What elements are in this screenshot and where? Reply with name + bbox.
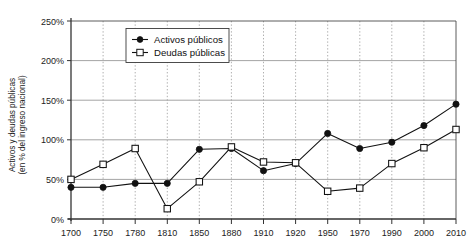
data-point-marker-square [389,160,395,166]
x-tick-label: 1810 [157,228,177,238]
y-axis-title-line1: Activos y deudas públicas [8,78,17,172]
data-point-marker-circle [132,180,138,186]
data-point-marker-square [260,159,266,165]
data-point-marker-square [196,179,202,185]
chart-container: 250% 200% 150% 100% 50% 0% 1700 175 [0,0,469,251]
data-point-marker-square [132,145,138,151]
open-square-icon [137,49,143,55]
chart-legend[interactable]: Activos públicos Deudas públicas [126,29,229,63]
data-point-marker-circle [453,101,459,107]
x-tick-label: 1920 [286,228,306,238]
y-axis-title: Activos y deudas públicas (en % del ingr… [8,75,27,174]
x-tick-label: 1950 [318,228,338,238]
legend-label-activos: Activos públicos [154,34,223,45]
y-tick-label: 0% [51,215,64,225]
data-point-marker-circle [389,139,395,145]
data-point-marker-square [228,144,234,150]
x-tick-label: 1780 [125,228,145,238]
data-point-marker-square [164,206,170,212]
y-tick-label: 250% [41,17,64,27]
x-tick-label: 1750 [93,228,113,238]
x-tick-label: 1850 [189,228,209,238]
x-tick-labels: 1700 1750 1780 1810 1850 1880 1910 1920 … [61,228,466,238]
x-axis-ticks [71,219,456,224]
x-tick-label: 2010 [446,228,466,238]
x-tick-label: 2000 [414,228,434,238]
y-tick-label: 150% [41,96,64,106]
data-point-marker-square [421,145,427,151]
filled-circle-icon [137,37,143,43]
y-tick-label: 50% [46,175,64,185]
data-point-marker-square [68,176,74,182]
data-point-marker-square [292,160,298,166]
x-tick-label: 1970 [350,228,370,238]
data-point-marker-square [357,185,363,191]
y-tick-label: 200% [41,56,64,66]
x-tick-label: 1700 [61,228,81,238]
y-axis-title-line2: (en % del ingreso nacional) [18,75,27,174]
x-tick-label: 1880 [221,228,241,238]
data-point-marker-circle [260,168,266,174]
data-point-marker-circle [68,184,74,190]
data-point-marker-circle [100,184,106,190]
y-tick-labels: 250% 200% 150% 100% 50% 0% [41,17,64,225]
data-point-marker-circle [421,122,427,128]
data-point-marker-square [324,188,330,194]
data-point-marker-square [100,161,106,167]
x-tick-label: 1910 [253,228,273,238]
data-point-marker-circle [164,180,170,186]
x-tick-label: 1990 [382,228,402,238]
line-chart: 250% 200% 150% 100% 50% 0% 1700 175 [0,0,469,251]
legend-label-deudas: Deudas públicas [154,47,225,58]
data-point-marker-circle [357,145,363,151]
data-point-marker-square [453,126,459,132]
y-tick-label: 100% [41,135,64,145]
data-point-marker-circle [325,130,331,136]
data-point-marker-circle [196,146,202,152]
